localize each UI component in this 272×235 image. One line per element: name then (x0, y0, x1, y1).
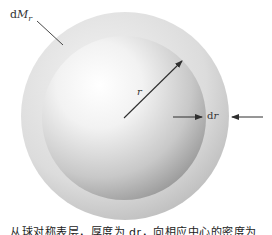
shell-leader-line (37, 21, 63, 45)
thickness-label: dr (207, 110, 218, 121)
radius-label: r (137, 86, 142, 97)
thickness-symbol: r (213, 110, 218, 121)
shell-mass-label: dMr (10, 8, 32, 23)
spherical-shell-diagram: dMr r dr 从球对称表层，厚度为 dr，向相应中心的密度为 (0, 0, 272, 235)
shell-mass-subscript: r (28, 14, 32, 23)
caption-text: 从球对称表层，厚度为 dr，向相应中心的密度为 (0, 226, 272, 235)
shell-mass-prefix: d (10, 8, 17, 21)
figure-caption: 从球对称表层，厚度为 dr，向相应中心的密度为 (0, 226, 272, 235)
diagram-canvas (0, 0, 272, 235)
shell-mass-symbol: M (17, 8, 28, 21)
